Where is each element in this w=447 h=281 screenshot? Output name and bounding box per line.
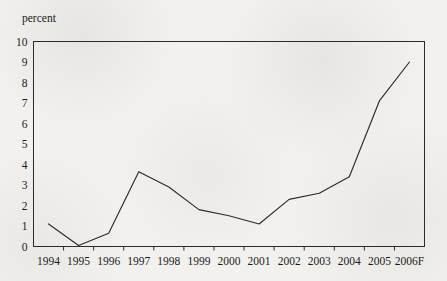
y-tick-label: 2 [22,200,28,212]
y-tick-label: 6 [22,118,28,130]
x-tick-label: 1995 [67,255,90,267]
x-tick-label: 2002 [278,255,301,267]
y-tick-label: 3 [22,179,28,191]
x-tick-label: 1997 [127,255,150,267]
y-tick-label: 5 [22,138,28,150]
y-tick-label: 10 [16,36,28,48]
chart-canvas: percent 012345678910 1994199519961997199… [0,0,447,281]
x-axis-tick-marks [64,247,395,251]
x-tick-label: 1996 [97,255,120,267]
y-tick-label: 4 [22,159,28,171]
x-tick-label: 1999 [187,255,210,267]
x-axis-tick-labels: 1994199519961997199819992000200120022003… [37,255,424,267]
y-axis-tick-labels: 012345678910 [16,36,28,253]
y-tick-label: 7 [22,97,28,109]
x-tick-label: 2003 [308,255,331,267]
y-axis-unit-label: percent [22,12,57,25]
x-tick-label: 2005 [368,255,391,267]
series-line-percent [49,62,410,245]
x-tick-label: 1998 [157,255,180,267]
x-tick-label: 2001 [248,255,271,267]
line-chart: percent 012345678910 1994199519961997199… [0,0,447,281]
x-tick-label: 2006F [395,255,424,267]
y-tick-label: 1 [22,220,28,232]
x-tick-label: 2000 [218,255,241,267]
x-tick-label: 2004 [338,255,361,267]
y-tick-label: 8 [22,77,28,89]
y-tick-label: 9 [22,56,28,68]
x-tick-label: 1994 [37,255,60,267]
y-tick-label: 0 [22,241,28,253]
